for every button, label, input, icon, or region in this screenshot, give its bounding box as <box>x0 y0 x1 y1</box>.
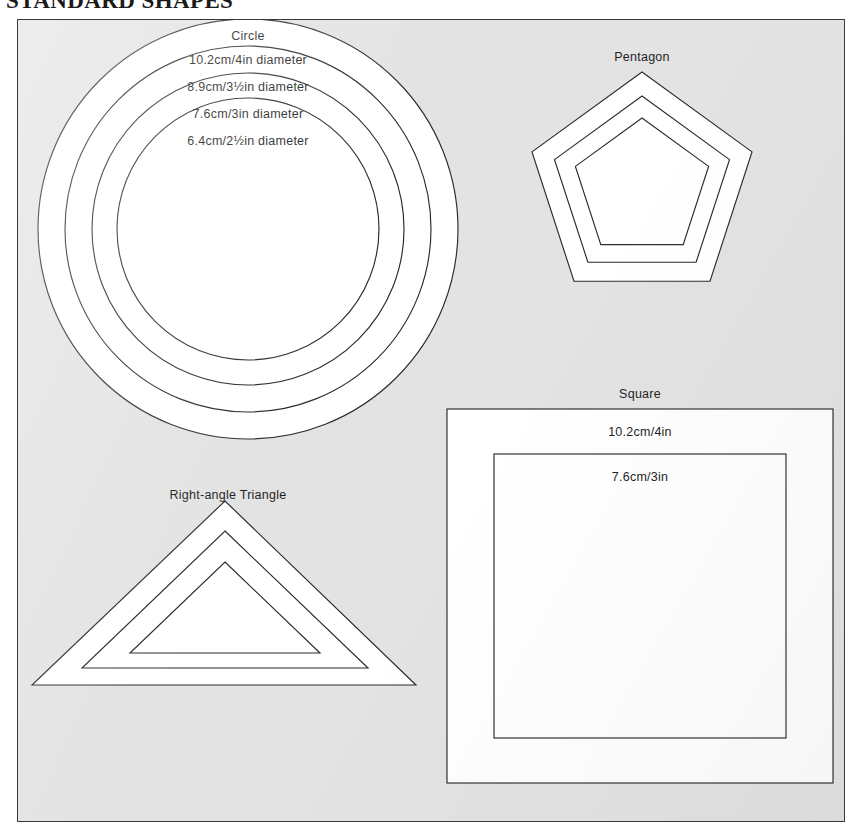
page-title: STANDARD SHAPES <box>6 0 233 12</box>
pentagon-rings-graphic <box>480 42 820 372</box>
square-title-label: Square <box>619 388 661 401</box>
circle-size-label-1: 10.2cm/4in diameter <box>189 54 307 67</box>
shape-square: Square 10.2cm/4in 7.6cm/3in <box>430 380 845 805</box>
circle-size-label-4: 6.4cm/2½in diameter <box>187 135 308 148</box>
pentagon-title-label: Pentagon <box>614 51 670 64</box>
shape-triangle: Right-angle Triangle <box>18 480 438 720</box>
triangle-title-label: Right-angle Triangle <box>170 489 287 502</box>
triangle-rings-graphic <box>18 480 438 720</box>
square-rings-graphic <box>430 380 845 805</box>
shape-plate: Circle 10.2cm/4in diameter 8.9cm/3½in di… <box>17 19 845 822</box>
shape-pentagon: Pentagon <box>480 42 820 372</box>
square-size-label-2: 7.6cm/3in <box>612 471 668 484</box>
square-size-label-1: 10.2cm/4in <box>608 426 672 439</box>
shape-circle: Circle 10.2cm/4in diameter 8.9cm/3½in di… <box>18 20 498 440</box>
circle-size-label-2: 8.9cm/3½in diameter <box>187 81 308 94</box>
circle-title-label: Circle <box>231 30 264 43</box>
square-ring-2 <box>494 454 786 738</box>
circle-size-label-3: 7.6cm/3in diameter <box>193 108 304 121</box>
